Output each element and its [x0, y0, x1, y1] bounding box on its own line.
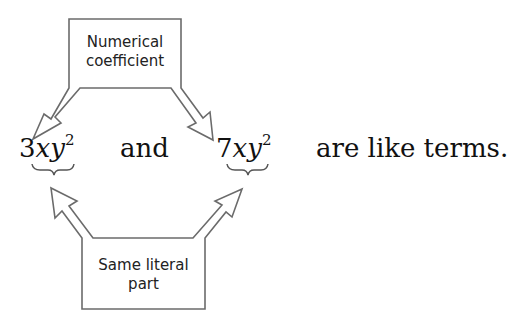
exponent: 2 — [262, 131, 272, 149]
term-7xy2: 7xy2 — [216, 133, 271, 163]
numerical-coefficient-label: Numerical coefficient — [69, 33, 181, 71]
term-3xy2: 3xy2 — [19, 133, 74, 163]
like-terms-diagram: Numerical coefficient Same literal part … — [0, 0, 511, 334]
conclusion-text: are like terms. — [316, 133, 508, 163]
label-line: Numerical — [69, 33, 181, 52]
label-line: Same literal — [82, 256, 205, 275]
underbrace-term2 — [227, 164, 268, 175]
underbrace-term1 — [32, 164, 74, 175]
label-line: coefficient — [69, 52, 181, 71]
same-literal-part-label: Same literal part — [82, 256, 205, 294]
coefficient: 7 — [216, 133, 233, 163]
exponent: 2 — [65, 131, 75, 149]
variable-y: y — [247, 133, 262, 163]
variable-x: x — [36, 133, 51, 163]
variable-y: y — [50, 133, 65, 163]
variable-x: x — [233, 133, 248, 163]
coefficient: 3 — [19, 133, 36, 163]
label-line: part — [82, 275, 205, 294]
connector-and: and — [120, 133, 169, 163]
